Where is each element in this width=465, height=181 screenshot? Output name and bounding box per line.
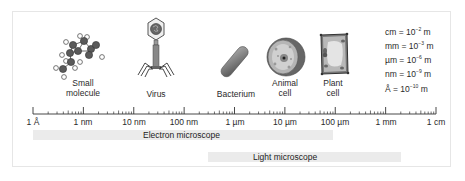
scale-label-1nm: 1 nm bbox=[74, 117, 93, 127]
scale-label-100nm: 100 nm bbox=[170, 117, 198, 127]
light-microscope-label: Light microscope bbox=[253, 152, 317, 162]
scale-label-10nm: 10 nm bbox=[122, 117, 146, 127]
log-scale-ruler bbox=[0, 0, 465, 120]
light-microscope-range: Light microscope bbox=[208, 152, 401, 162]
scale-label-10um: 10 µm bbox=[273, 117, 297, 127]
scale-label-1cm: 1 cm bbox=[427, 117, 445, 127]
electron-microscope-label: Electron microscope bbox=[143, 130, 220, 140]
electron-microscope-range: Electron microscope bbox=[33, 130, 333, 140]
scale-label-100um: 100 µm bbox=[321, 117, 350, 127]
scale-label-1a: 1 Å bbox=[27, 117, 40, 127]
scale-label-1mm: 1 mm bbox=[375, 117, 396, 127]
scale-label-1um: 1 µm bbox=[225, 117, 244, 127]
